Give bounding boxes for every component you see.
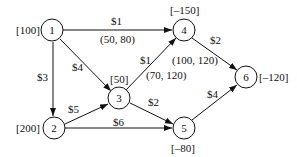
node-4-supply: [–150] [170, 5, 199, 16]
node-6-label: 6 [235, 66, 257, 88]
edge-1-4-cost: $1 [111, 16, 122, 27]
node-3-supply: [50] [110, 74, 128, 85]
edge-2-5-cost: $6 [113, 117, 124, 128]
edge-5-6-cost: $4 [207, 89, 218, 100]
edge-1-3 [60, 39, 111, 91]
edge-3-4-bounds: (70, 120) [146, 70, 186, 81]
node-1-label: 1 [41, 19, 63, 41]
network-flow-diagram: 1 2 3 4 5 6 [100] [200] [50] [–150] [–80… [0, 0, 297, 157]
edge-1-4-bounds: (50, 80) [100, 34, 135, 45]
node-4-label: 4 [173, 19, 195, 41]
edge-3-4-cost: $1 [140, 55, 151, 66]
edge-3-4 [126, 38, 176, 90]
node-3-label: 3 [108, 87, 130, 109]
edge-1-3-cost: $4 [72, 62, 83, 73]
edge-4-6-cost: $2 [210, 35, 221, 46]
edge-2-3-cost: $5 [68, 104, 79, 115]
edge-4-6-bounds: (100, 120) [172, 55, 218, 66]
node-5-supply: [–80] [171, 143, 195, 154]
node-5-label: 5 [173, 117, 195, 139]
node-2-label: 2 [43, 117, 65, 139]
node-1-supply: [100] [16, 25, 40, 36]
edge-1-2-cost: $3 [37, 72, 48, 83]
node-2-supply: [200] [16, 123, 40, 134]
edge-3-5-cost: $2 [148, 97, 159, 108]
node-6-supply: [–120] [259, 72, 288, 83]
